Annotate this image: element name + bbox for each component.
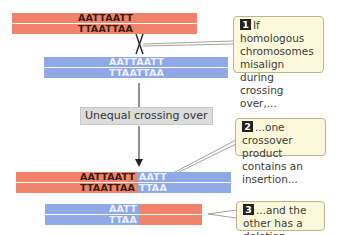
step-number-badge: 3 — [243, 204, 254, 215]
callout-1-pointer — [143, 41, 233, 44]
sequence-red-strand-1: AATTAATT — [80, 172, 135, 182]
callout-2: 2...one crossover product contains an in… — [235, 118, 326, 156]
sequence-red-strand-2: TTAATTAA — [80, 183, 135, 193]
sequence-strand-1: AATTAATT — [109, 57, 164, 67]
top-blue-chromosome: AATTAATT TTAATTAA — [44, 57, 228, 78]
sequence-strand-2: TTAA — [109, 215, 137, 225]
step-number-badge: 1 — [240, 19, 251, 30]
process-label: Unequal crossing over — [80, 107, 213, 125]
callout-1: 1If homologous chromosomes misalign duri… — [233, 16, 324, 73]
sequence-blue-strand-1: AATT — [139, 172, 167, 182]
top-red-chromosome: AATTAATT TTAATTAA — [12, 13, 197, 34]
sequence-strand-1: AATT — [109, 204, 137, 214]
step-number-badge: 2 — [242, 121, 253, 132]
arrow-head-icon — [135, 159, 143, 167]
deletion-product-chromosome: AATT TTAA — [45, 204, 202, 225]
sequence-strand-2: TTAATTAA — [109, 68, 164, 78]
sequence-strand-2: TTAATTAA — [78, 24, 133, 34]
callout-3-pointer — [208, 210, 236, 214]
sequence-blue-strand-2: TTAA — [139, 183, 167, 193]
callout-3: 3...and the other has a deletion. — [236, 201, 325, 231]
callout-2-pointer — [175, 140, 236, 172]
insertion-product-chromosome: AATTAATT TTAATTAA AATT TTAA — [16, 172, 231, 193]
sequence-strand-1: AATTAATT — [78, 13, 133, 23]
